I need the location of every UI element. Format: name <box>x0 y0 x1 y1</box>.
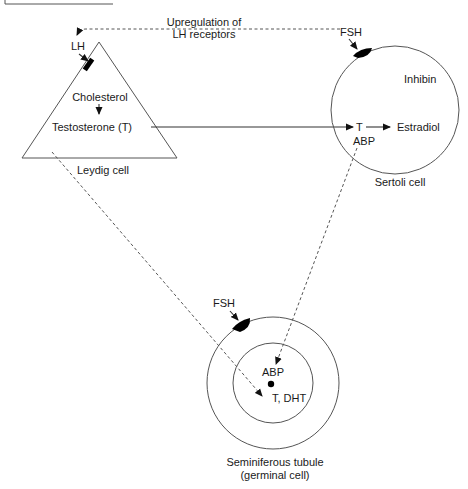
hormonal-regulation-diagram: Upregulation of LH receptors LH Choleste… <box>0 0 468 489</box>
abp-to-tubule-arrow <box>276 148 357 364</box>
feedback-label-line1: Upregulation of <box>167 16 243 28</box>
tubule-fsh-receptor <box>232 318 250 332</box>
leydig-to-tubule-arrow <box>52 152 262 396</box>
leydig-cell: LH Cholesterol Testosterone (T) Leydig c… <box>22 40 177 176</box>
lh-arrow <box>79 54 88 61</box>
leydig-lh-label: LH <box>71 40 85 52</box>
tubule-fsh-arrow <box>230 311 238 320</box>
feedback-label-line2: LH receptors <box>173 28 236 40</box>
sertoli-cell: FSH Inhibin T Estradiol ABP Sertoli cell <box>331 26 459 188</box>
sertoli-inhibin: Inhibin <box>404 73 436 85</box>
leydig-cholesterol: Cholesterol <box>72 91 128 103</box>
sertoli-fsh-arrow <box>349 39 357 49</box>
tubule-caption-line1: Seminiferous tubule <box>226 456 323 468</box>
sertoli-fsh-label: FSH <box>340 26 362 38</box>
tubule-abp: ABP <box>262 366 284 378</box>
feedback-arrow: Upregulation of LH receptors <box>77 16 340 40</box>
tubule-center-dot <box>268 381 274 387</box>
sertoli-estradiol: Estradiol <box>397 121 440 133</box>
leydig-testosterone: Testosterone (T) <box>52 121 132 133</box>
sertoli-t: T <box>356 121 363 133</box>
sertoli-abp: ABP <box>353 135 375 147</box>
tubule-fsh-label: FSH <box>213 297 235 309</box>
leydig-caption: Leydig cell <box>77 164 129 176</box>
sertoli-fsh-receptor <box>353 48 372 58</box>
sertoli-caption: Sertoli cell <box>375 176 426 188</box>
seminiferous-tubule: FSH ABP T, DHT Seminiferous tubule (germ… <box>207 297 339 481</box>
tubule-androgens: T, DHT <box>272 392 307 404</box>
header-box <box>5 0 113 4</box>
tubule-caption-line2: (germinal cell) <box>240 469 309 481</box>
